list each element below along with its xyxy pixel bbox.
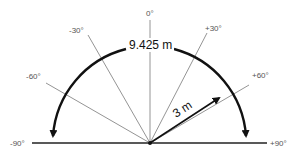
center-point — [148, 141, 152, 145]
arc-length-label: 9.425 m — [129, 38, 172, 52]
label-minus-30: -30° — [69, 26, 84, 35]
ray-minus-60 — [46, 83, 150, 143]
label-0: 0° — [146, 9, 154, 18]
label-plus-30: +30° — [205, 24, 222, 33]
label-minus-60: -60° — [26, 72, 41, 81]
semicircle-diagram: 0° -30° +30° -60° +60° -90° +90° 9.425 m… — [0, 0, 302, 156]
label-plus-60: +60° — [252, 71, 269, 80]
label-minus-90: -90° — [10, 139, 25, 148]
label-plus-90: +90° — [270, 139, 287, 148]
